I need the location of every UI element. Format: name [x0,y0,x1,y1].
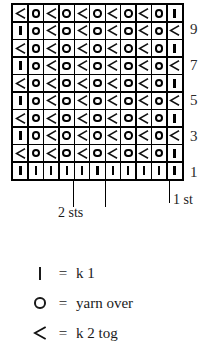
stitch-cell [13,93,27,109]
knit-one-icon [173,149,175,158]
stitch-cell [75,93,89,109]
knit-one-icon [143,166,145,175]
k-two-together-icon [15,148,26,159]
row-number-7: 7 [190,58,212,73]
knit-one-icon [66,166,68,175]
stitch-cell [60,128,74,144]
repeat-two-sts-label: 2 sts [58,206,83,220]
k-two-together-icon [138,60,149,71]
k-two-together-icon [46,130,57,141]
stitch-cell [152,58,166,74]
stitch-cell [90,75,104,91]
stitch-cell [75,75,89,91]
knit-one-icon [112,166,114,175]
knit-one-icon [173,166,175,175]
k-two-together-icon [77,60,88,71]
yarn-over-icon [62,131,70,139]
stitch-cell [44,58,58,74]
stitch-cell [137,23,151,39]
knit-one-icon [19,26,21,35]
legend-label: yarn over [76,296,133,311]
repeat-tick-left [73,181,74,207]
stitch-cell [152,145,166,161]
stitch-cell [75,110,89,126]
stitch-grid [11,3,184,181]
row-number-3: 3 [190,129,212,144]
yarn-over-icon [93,149,101,157]
legend-equals-sign: = [50,325,76,342]
stitch-cell [29,23,43,39]
yarn-over-icon [32,9,40,17]
knit-one-icon [127,166,129,175]
stitch-cell [60,163,74,179]
k-two-together-icon [46,113,57,124]
stitch-cell [121,145,135,161]
k-two-together-icon [77,8,88,19]
stitch-cell [60,40,74,56]
stitch-cell [137,163,151,179]
yarn-over-icon [155,9,163,17]
stitch-cell [90,145,104,161]
legend-equals-sign: = [50,295,76,312]
stitch-cell [13,145,27,161]
k-two-together-icon [169,25,180,36]
stitch-cell [106,58,120,74]
stitch-cell [137,40,151,56]
repeat-tick-right [105,181,106,207]
k-two-together-icon [77,95,88,106]
stitch-cell [13,128,27,144]
yarn-over-icon [155,149,163,157]
yarn-over-icon [62,9,70,17]
stitch-cell [121,128,135,144]
legend-symbol [30,326,50,340]
yarn-over-icon [124,62,132,70]
k-two-together-icon [15,78,26,89]
k-two-together-icon [107,130,118,141]
stitch-cell [152,5,166,21]
k-two-together-icon [138,148,149,159]
k-two-together-icon [77,78,88,89]
stitch-cell [137,5,151,21]
stitch-cell [137,110,151,126]
stitch-cell [121,163,135,179]
knit-one-icon [19,166,21,175]
k-two-together-icon [46,60,57,71]
stitch-cell [121,110,135,126]
yarn-over-icon [124,44,132,52]
k-two-together-icon [46,78,57,89]
stitch-cell [106,163,120,179]
stitch-cell [29,110,43,126]
legend-symbol [30,297,50,309]
stitch-cell [121,23,135,39]
knit-one-icon [35,166,37,175]
stitch-cell [29,145,43,161]
stitch-cell [60,145,74,161]
yarn-over-icon [93,114,101,122]
k-two-together-icon [77,148,88,159]
knit-one-icon [173,114,175,123]
knit-one-icon [158,166,160,175]
k-two-together-icon [46,148,57,159]
yarn-over-icon [32,62,40,70]
k-two-together-icon [77,43,88,54]
k-two-together-icon [107,113,118,124]
k-two-together-icon [107,25,118,36]
stitch-cell [168,58,182,74]
row-number-1: 1 [190,165,212,180]
yarn-over-icon [32,27,40,35]
stitch-cell [121,75,135,91]
yarn-over-icon [62,44,70,52]
legend-label: k 1 [76,266,95,281]
yarn-over-icon [62,62,70,70]
stitch-cell [168,40,182,56]
stitch-cell [44,75,58,91]
stitch-cell [90,5,104,21]
knit-one-icon [19,61,21,70]
stitch-cell [137,75,151,91]
knit-one-icon [19,96,21,105]
stitch-cell [168,23,182,39]
stitch-cell [106,5,120,21]
stitch-cell [75,163,89,179]
yarn-over-icon [155,44,163,52]
k-two-together-icon [15,43,26,54]
